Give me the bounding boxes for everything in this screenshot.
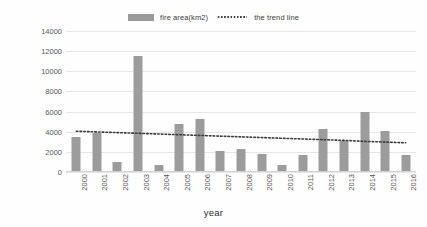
legend-label-trend-line: the trend line xyxy=(254,13,299,22)
x-tick-label: 2001 xyxy=(100,174,109,191)
x-tick-label: 2004 xyxy=(162,174,171,191)
y-tick-label: 4000 xyxy=(45,127,62,136)
x-axis-title: year xyxy=(0,207,427,218)
x-tick-label: 2014 xyxy=(368,174,377,191)
y-tick-label: 6000 xyxy=(45,107,62,116)
y-tick-label: 2000 xyxy=(45,147,62,156)
plot-area xyxy=(66,31,416,172)
x-tick-label: 2006 xyxy=(203,174,212,191)
x-tick-label: 2009 xyxy=(265,174,274,191)
x-axis-ticks: 2000200120022003200420052006200720082009… xyxy=(66,174,416,204)
x-tick-label: 2015 xyxy=(389,174,398,191)
y-tick-label: 8000 xyxy=(45,87,62,96)
legend-swatch-fire-area xyxy=(128,14,154,21)
fire-area-bar-chart: fire area(km2) the trend line fire area（… xyxy=(0,0,427,227)
y-tick-label: 12000 xyxy=(41,47,62,56)
legend-label-fire-area: fire area(km2) xyxy=(160,13,208,22)
y-axis-ticks: 14000120001000080006000400020000 xyxy=(26,31,62,172)
x-tick-label: 2002 xyxy=(121,174,130,191)
y-tick-label: 14000 xyxy=(41,27,62,36)
legend-swatch-trend-line xyxy=(217,16,247,18)
x-tick-label: 2010 xyxy=(286,174,295,191)
x-tick-label: 2007 xyxy=(224,174,233,191)
y-tick-label: 0 xyxy=(58,168,62,177)
x-tick-label: 2016 xyxy=(409,174,418,191)
x-tick-label: 2008 xyxy=(245,174,254,191)
x-tick-label: 2012 xyxy=(327,174,336,191)
x-tick-label: 2011 xyxy=(306,174,315,190)
x-tick-label: 2003 xyxy=(142,174,151,191)
x-tick-label: 2013 xyxy=(347,174,356,191)
y-tick-label: 10000 xyxy=(41,67,62,76)
trend-line-series xyxy=(66,31,416,172)
x-axis-line xyxy=(66,171,416,172)
chart-legend: fire area(km2) the trend line xyxy=(0,9,427,25)
gridline xyxy=(66,172,416,173)
x-tick-label: 2005 xyxy=(183,174,192,191)
x-tick-label: 2000 xyxy=(80,174,89,191)
